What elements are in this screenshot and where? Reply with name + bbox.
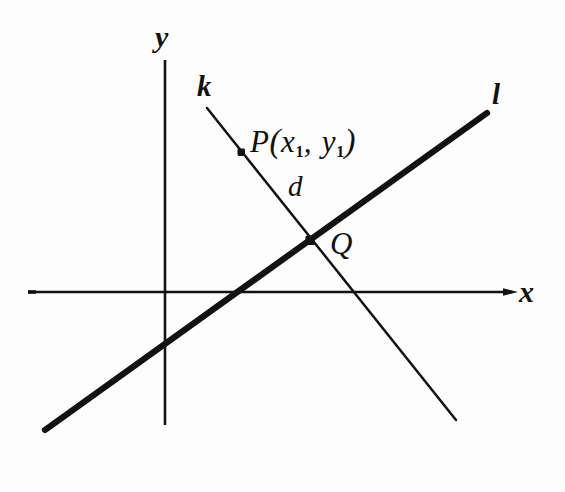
point-q-label: Q (330, 228, 352, 259)
line-l (45, 113, 487, 430)
point-p-y-variable: y (322, 124, 336, 159)
diagram-canvas (0, 0, 565, 492)
x-axis-group (28, 288, 518, 295)
line-k-label: k (197, 72, 212, 101)
geometry-diagram: y x k l P(x1, y1) d Q (0, 0, 565, 492)
x-axis-label: x (519, 277, 534, 307)
x-axis-arrowhead (503, 288, 518, 295)
point-p-x-variable: x (281, 124, 295, 159)
point-p-comma: , (304, 124, 314, 159)
point-p-close-paren: ) (345, 123, 356, 159)
point-p-x-subscript: 1 (295, 143, 304, 160)
segment-d-label: d (288, 172, 303, 201)
point-p-marker (238, 149, 246, 157)
line-l-label: l (492, 80, 500, 109)
point-q-marker (306, 236, 316, 246)
point-p-open-paren: ( (269, 123, 280, 159)
point-p-y-subscript: 1 (336, 143, 345, 160)
point-p-label: P(x1, y1) (250, 125, 356, 158)
y-axis-label: y (155, 22, 168, 52)
point-p-letter: P (250, 124, 269, 159)
